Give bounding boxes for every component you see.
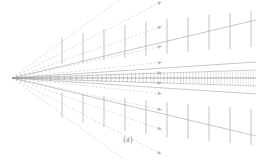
figure-caption: (a) bbox=[0, 135, 256, 145]
figure-container: (a) bbox=[0, 0, 256, 160]
